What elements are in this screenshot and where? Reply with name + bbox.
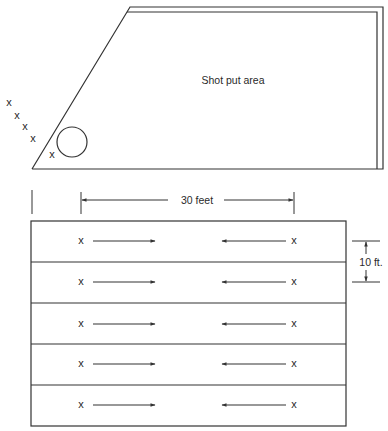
thrower-mark: x [28, 133, 38, 144]
lane-2-left-marker: x [76, 276, 86, 287]
shot-put-area-label: Shot put area [200, 75, 266, 86]
thrower-mark: x [4, 97, 14, 108]
thrower-mark: x [12, 110, 22, 121]
thrower-mark: x [47, 149, 57, 160]
shot-put-area [32, 7, 383, 169]
lane-3-right-marker: x [289, 318, 299, 329]
lane-height-label: 10 ft. [355, 257, 387, 268]
lane-5-left-marker: x [76, 399, 86, 410]
lane-4-left-marker: x [76, 358, 86, 369]
lane-5-right-marker: x [289, 399, 299, 410]
throwing-circle [57, 127, 87, 157]
width-dimension-label: 30 feet [170, 195, 224, 206]
width-dimension [32, 190, 294, 214]
lane-4-right-marker: x [289, 358, 299, 369]
lane-2-right-marker: x [289, 276, 299, 287]
shot-put-diagram [0, 0, 388, 431]
lane-1-left-marker: x [76, 235, 86, 246]
sector-inner-boundary [127, 12, 377, 169]
sector-outer-boundary [32, 7, 383, 169]
thrower-mark: x [20, 121, 30, 132]
lane-3-left-marker: x [76, 318, 86, 329]
lane-1-right-marker: x [289, 235, 299, 246]
lane-arrows [93, 241, 286, 405]
